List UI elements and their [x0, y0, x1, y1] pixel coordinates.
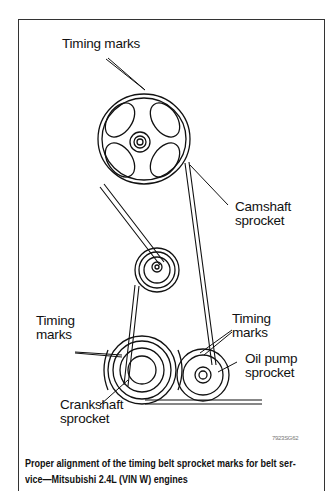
timing-belt-diagram — [0, 0, 333, 491]
crankshaft-sprocket — [104, 336, 182, 404]
label-timing-marks-top: Timing marks — [62, 37, 140, 51]
label-timing-marks-right-line1: Timing — [232, 312, 271, 326]
tensioner-pulley — [135, 248, 179, 292]
label-timing-marks-right-line2: marks — [232, 326, 268, 340]
label-crankshaft-line1: Crankshaft — [60, 398, 123, 412]
label-oil-pump-line2: sprocket — [245, 366, 294, 380]
label-timing-marks-left-line2: marks — [36, 328, 72, 342]
oil-pump-sprocket — [177, 349, 229, 401]
label-timing-marks-left-line1: Timing — [36, 314, 75, 328]
figure-caption: Proper alignment of the timing belt spro… — [25, 455, 320, 487]
camshaft-sprocket — [98, 94, 190, 184]
caption-line-2: vice—Mitsubishi 2.4L (VIN W) engines — [25, 471, 320, 487]
label-camshaft-line1: Camshaft — [235, 200, 291, 214]
caption-line-1: Proper alignment of the timing belt spro… — [25, 455, 320, 471]
label-camshaft-line2: sprocket — [235, 214, 284, 228]
figure-id: 7923SG62 — [272, 435, 298, 441]
label-crankshaft-line2: sprocket — [60, 412, 109, 426]
label-oil-pump-line1: Oil pump — [245, 352, 297, 366]
